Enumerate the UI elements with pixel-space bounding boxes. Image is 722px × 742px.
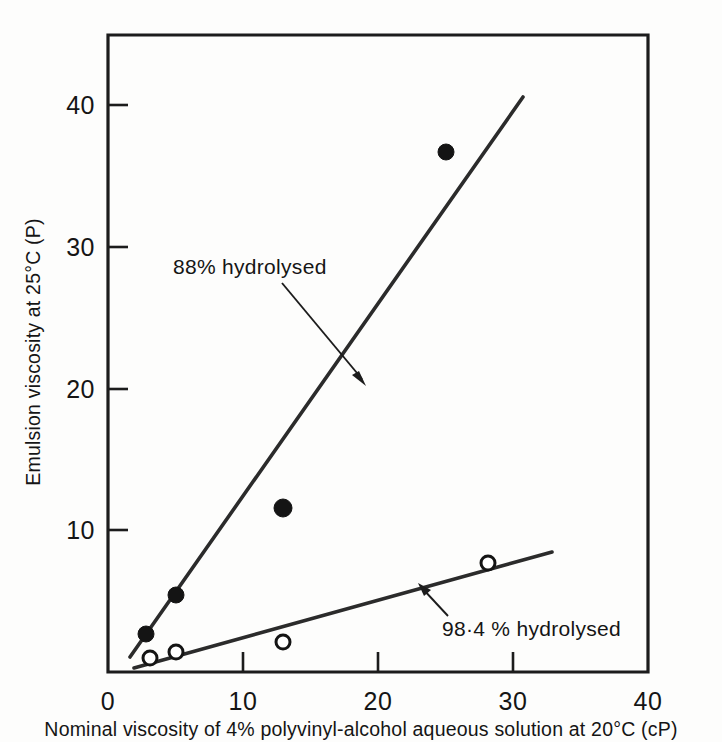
x-axis-ticks bbox=[243, 652, 513, 672]
x-tick-label-40: 40 bbox=[634, 687, 663, 715]
data-point-open bbox=[276, 635, 290, 649]
annotation-label-88-percent: 88% hydrolysed bbox=[173, 255, 327, 278]
y-tick-label-10: 10 bbox=[66, 516, 95, 544]
series-88-percent-points bbox=[138, 144, 454, 642]
y-tick-label-20: 20 bbox=[66, 375, 95, 403]
data-point-filled bbox=[168, 587, 184, 603]
plot-frame bbox=[108, 35, 648, 672]
y-tick-label-40: 40 bbox=[66, 91, 95, 119]
data-point-open bbox=[143, 651, 157, 665]
chart-figure: 40 30 20 10 0 10 20 30 40 Nominal viscos… bbox=[0, 0, 722, 742]
x-tick-label-20: 20 bbox=[364, 687, 393, 715]
annotation-leader-88-percent bbox=[282, 283, 362, 379]
x-tick-label-0: 0 bbox=[101, 687, 115, 715]
annotation-arrowhead-88-percent bbox=[352, 371, 366, 386]
x-axis-title: Nominal viscosity of 4% polyvinyl-alcoho… bbox=[44, 718, 677, 740]
scatter-plot-canvas: 40 30 20 10 0 10 20 30 40 Nominal viscos… bbox=[0, 0, 722, 742]
fit-line-88-percent bbox=[130, 97, 523, 657]
data-point-filled bbox=[274, 499, 292, 517]
data-point-filled bbox=[438, 144, 454, 160]
annotation-label-98-4-percent: 98·4 % hydrolysed bbox=[442, 617, 621, 640]
y-axis-title: Emulsion viscosity at 25°C (P) bbox=[22, 218, 44, 485]
data-point-filled bbox=[138, 626, 154, 642]
y-tick-label-30: 30 bbox=[66, 233, 95, 261]
data-point-open bbox=[481, 556, 495, 570]
data-point-open bbox=[169, 645, 183, 659]
x-tick-label-10: 10 bbox=[229, 687, 258, 715]
y-axis-ticks bbox=[108, 105, 128, 530]
x-tick-label-30: 30 bbox=[499, 687, 528, 715]
